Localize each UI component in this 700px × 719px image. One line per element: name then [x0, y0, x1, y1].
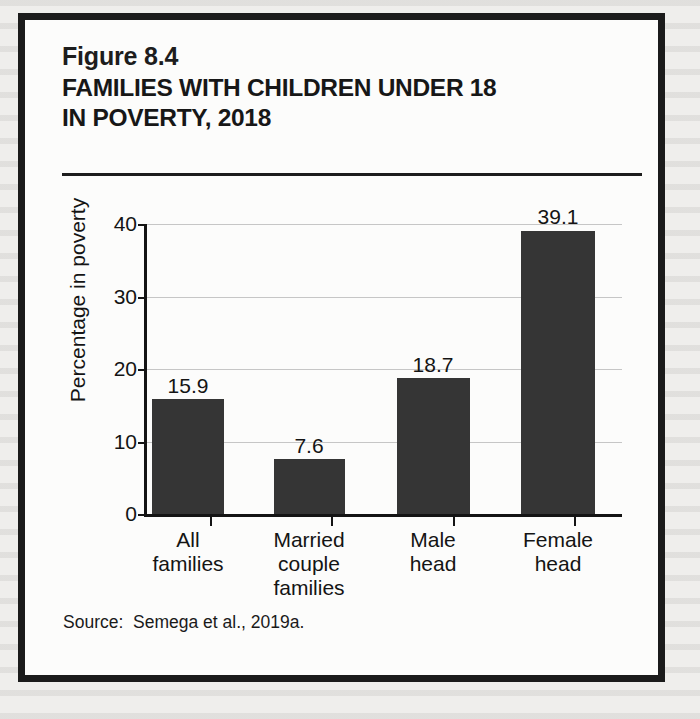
x-category-label-all-families: All families	[125, 528, 251, 576]
x-category-label-married-couple-families-line-3: families	[246, 576, 372, 600]
x-tick-mark-3	[453, 517, 455, 526]
x-category-label-female-head-line-1: Female	[495, 528, 621, 552]
bar-wrap-all-families	[152, 224, 224, 514]
y-tick-label-10: 10	[77, 431, 137, 452]
bar-chart-plot: Percentage in poverty 40 30 20 10 0	[25, 20, 672, 689]
x-category-label-all-families-line-1: All	[125, 528, 251, 552]
x-category-label-married-couple-families-line-2: couple	[246, 552, 372, 576]
figure-inner-panel: Figure 8.4 FAMILIES WITH CHILDREN UNDER …	[25, 20, 658, 675]
x-category-label-male-head-line-2: head	[370, 552, 496, 576]
x-category-label-male-head-line-1: Male	[370, 528, 496, 552]
x-category-label-married-couple-families-line-1: Married	[246, 528, 372, 552]
bar-value-female-head: 39.1	[498, 206, 618, 227]
bar-male-head[interactable]	[397, 378, 470, 514]
bar-value-male-head: 18.7	[373, 354, 493, 375]
x-category-label-married-couple-families: Married couple families	[246, 528, 372, 600]
y-tick-label-40: 40	[77, 213, 137, 234]
x-tick-mark-2	[331, 517, 333, 526]
figure-source-note: Source: Semega et al., 2019a.	[63, 612, 304, 633]
y-tick-label-30: 30	[77, 286, 137, 307]
bar-married-couple-families[interactable]	[274, 459, 345, 514]
bar-all-families[interactable]	[152, 399, 224, 514]
x-category-label-female-head: Female head	[495, 528, 621, 576]
bar-female-head[interactable]	[521, 231, 595, 515]
bar-wrap-female-head	[521, 224, 595, 514]
x-category-label-all-families-line-2: families	[125, 552, 251, 576]
bar-value-all-families: 15.9	[128, 375, 248, 396]
figure-box: Figure 8.4 FAMILIES WITH CHILDREN UNDER …	[18, 13, 665, 682]
x-category-label-female-head-line-2: head	[495, 552, 621, 576]
bar-value-married-couple-families: 7.6	[249, 435, 369, 456]
x-axis-line	[144, 514, 622, 517]
x-tick-mark-1	[210, 517, 212, 526]
y-axis-line	[144, 224, 147, 516]
bar-wrap-married-couple-families	[274, 224, 345, 514]
x-category-label-male-head: Male head	[370, 528, 496, 576]
x-tick-mark-4	[574, 517, 576, 526]
y-tick-label-0: 0	[77, 503, 137, 524]
